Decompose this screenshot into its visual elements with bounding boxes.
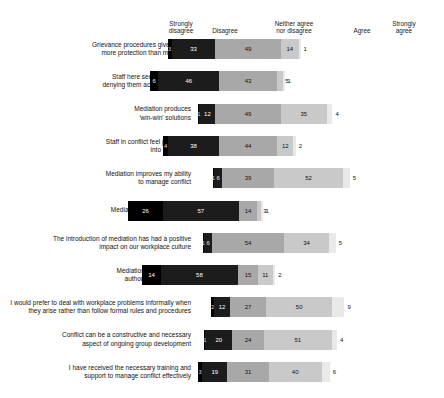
stacked-bar: 26571431 (128, 201, 262, 221)
bar-segment: 51 (264, 330, 332, 350)
bar-segment: 27 (230, 297, 266, 317)
segment-value: 54 (245, 240, 252, 246)
legend-label-agree: Agree (345, 27, 379, 34)
likert-diverging-bar-chart: Strongly disagree Disagree Neither agree… (0, 0, 444, 398)
segment-value: 6 (333, 369, 336, 375)
segment-value: 9 (347, 304, 350, 310)
stacked-bar: 43844122 (163, 136, 296, 156)
chart-row: Staff in conflict feel pressured into me… (0, 133, 444, 159)
stacked-bar: 31931406 (198, 362, 330, 382)
bar-segment: 11 (258, 265, 273, 285)
segment-value: 40 (292, 369, 299, 375)
segment-value: 3 (168, 46, 171, 52)
bar-area: 145815112 (196, 262, 444, 288)
bar-segment: 24 (232, 330, 264, 350)
stacked-bar: 1654345 (203, 233, 336, 253)
bar-segment: 12 (199, 104, 215, 124)
bar-area: 31931406 (196, 359, 444, 385)
segment-value: 3 (199, 369, 202, 375)
bar-segment: 57 (163, 201, 239, 221)
bar-segment: 39 (222, 168, 274, 188)
segment-value: 12 (282, 143, 289, 149)
bar-segment: 9 (332, 297, 344, 317)
segment-value: 2 (278, 272, 281, 278)
chart-row: Conflict can be a constructive and neces… (0, 327, 444, 353)
bar-segment: 26 (128, 201, 163, 221)
bar-segment: 34 (284, 233, 329, 253)
chart-row: The introduction of mediation has had a … (0, 230, 444, 256)
segment-value: 6 (206, 240, 209, 246)
segment-value: 12 (219, 304, 226, 310)
bar-segment: 35 (281, 104, 328, 124)
row-label: Mediation improves my ability to manage … (0, 170, 196, 186)
segment-value: 14 (148, 272, 155, 278)
bar-area: 11249354 (196, 101, 444, 127)
stacked-bar: 21227509 (211, 297, 344, 317)
bar-segment: 49 (215, 39, 280, 59)
segment-value: 33 (190, 46, 197, 52)
bar-segment: 49 (215, 104, 280, 124)
bar-area: 26571431 (196, 198, 444, 224)
chart-row: Mediation is a waste of time26571431 (0, 198, 444, 224)
segment-value: 46 (185, 78, 192, 84)
bar-segment: 2 (293, 136, 296, 156)
bar-segment: 43 (219, 71, 276, 91)
chart-row: Grievance procedures give parties more p… (0, 36, 444, 62)
segment-value: 2 (211, 304, 214, 310)
segment-value: 1 (202, 240, 205, 246)
bar-area: 33349141 (196, 36, 444, 62)
segment-value: 27 (245, 304, 252, 310)
legend-label-strongly-disagree: Strongly disagree (158, 20, 204, 35)
bar-segment: 52 (274, 168, 343, 188)
segment-value: 26 (142, 208, 149, 214)
legend-label-strongly-agree: Strongly agree (380, 20, 428, 35)
bar-segment: 1 (299, 39, 300, 59)
segment-value: 14 (287, 46, 294, 52)
segment-value: 49 (245, 46, 252, 52)
legend-label-disagree: Disagree (205, 27, 245, 34)
bar-segment: 4 (327, 104, 332, 124)
chart-row: I have received the necessary training a… (0, 359, 444, 385)
row-label: Mediation produces 'win-win' solutions (0, 105, 196, 121)
segment-value: 14 (245, 208, 252, 214)
segment-value: 5 (339, 240, 342, 246)
bar-segment: 5 (343, 168, 350, 188)
bar-segment: 19 (202, 362, 227, 382)
chart-row: Mediation produces 'win-win' solutions11… (0, 101, 444, 127)
chart-row: I would prefer to deal with workplace pr… (0, 294, 444, 320)
segment-value: 6 (216, 175, 219, 181)
bar-segment: 44 (219, 136, 278, 156)
chart-row: Mediation undermines my authority as a m… (0, 262, 444, 288)
segment-value: 12 (204, 111, 211, 117)
stacked-bar: 12024514 (204, 330, 337, 350)
bar-segment: 50 (266, 297, 333, 317)
segment-value: 39 (245, 175, 252, 181)
segment-value: 51 (295, 337, 302, 343)
bar-segment: 14 (239, 201, 258, 221)
bar-segment: 15 (238, 265, 258, 285)
bar-segment: 33 (172, 39, 216, 59)
segment-value: 52 (305, 175, 312, 181)
segment-value: 24 (245, 337, 252, 343)
segment-value: 1 (197, 111, 200, 117)
segment-value: 58 (196, 272, 203, 278)
bar-segment: 6 (322, 362, 330, 382)
segment-value: 6 (153, 78, 156, 84)
stacked-bar: 6464351 (150, 71, 284, 91)
segment-value: 35 (300, 111, 307, 117)
segment-value: 38 (190, 143, 197, 149)
segment-value: 31 (245, 369, 252, 375)
bar-area: 43844122 (196, 133, 444, 159)
segment-value: 1 (304, 46, 307, 52)
chart-row: Staff here see mediation as denying them… (0, 68, 444, 94)
bar-segment: 5 (277, 71, 284, 91)
segment-value: 50 (296, 304, 303, 310)
bar-segment: 14 (281, 39, 300, 59)
bar-segment: 31 (227, 362, 268, 382)
row-label: I have received the necessary training a… (0, 364, 196, 380)
bar-segment: 58 (161, 265, 238, 285)
bar-segment: 4 (332, 330, 337, 350)
bar-segment: 12 (277, 136, 293, 156)
legend-label-neither: Neither agree nor disagree (258, 20, 330, 35)
chart-row: Mediation improves my ability to manage … (0, 165, 444, 191)
